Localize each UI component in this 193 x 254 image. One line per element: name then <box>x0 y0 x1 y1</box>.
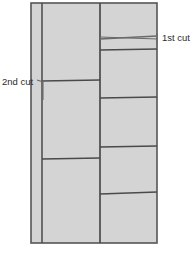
middle-cut-2 <box>42 158 100 159</box>
board-cutting-diagram: 1st cut 2nd cut <box>0 0 193 254</box>
right-cut-2 <box>100 49 157 50</box>
right-cut-3 <box>100 97 157 98</box>
first-cut-label: 1st cut <box>162 32 190 43</box>
diagram-canvas: 1st cut 2nd cut <box>0 0 193 254</box>
right-cut-4 <box>100 146 157 147</box>
middle-cut-1 <box>42 80 100 81</box>
second-cut-label: 2nd cut <box>2 76 34 87</box>
board-panel <box>31 3 157 243</box>
